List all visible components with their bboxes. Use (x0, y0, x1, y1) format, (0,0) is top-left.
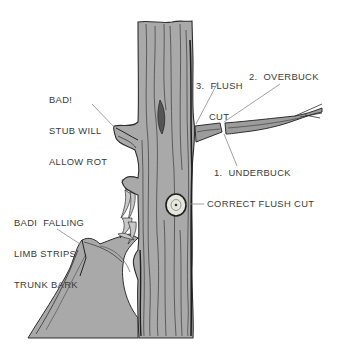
correct-flush-cut-wound (166, 194, 186, 216)
label-line: BAD! (49, 95, 107, 105)
label-stub-warning: BAD! STUB WILL ALLOW ROT (49, 75, 107, 187)
label-line: BADI FALLING (14, 218, 84, 228)
label-line: STUB WILL (49, 126, 107, 136)
pruning-diagram: BAD! STUB WILL ALLOW ROT BADI FALLING LI… (0, 0, 337, 354)
label-line: ALLOW ROT (49, 157, 107, 167)
label-correct-flush-cut: CORRECT FLUSH CUT (207, 199, 314, 209)
label-line: CUT (196, 112, 243, 122)
label-falling-limb-warning: BADI FALLING LIMB STRIPS TRUNK BARK (14, 198, 84, 310)
label-step3-flush-cut: 3. FLUSH CUT (196, 61, 243, 143)
trunk (114, 21, 195, 338)
label-line: LIMB STRIPS (14, 249, 84, 259)
label-line: TRUNK BARK (14, 280, 84, 290)
label-step2-overbuck: 2. OVERBUCK (249, 72, 319, 82)
label-step1-underbuck: 1. UNDERBUCK (214, 168, 291, 178)
label-line: 3. FLUSH (196, 81, 243, 91)
